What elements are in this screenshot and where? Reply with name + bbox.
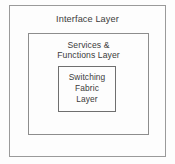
layer-box-switching-fabric: Switching Fabric Layer <box>58 66 116 112</box>
layer-label-interface: Interface Layer <box>10 14 165 25</box>
layer-box-interface: Interface Layer Services & Functions Lay… <box>9 5 166 157</box>
layer-label-switching-fabric: Switching Fabric Layer <box>59 72 115 105</box>
diagram-canvas: Interface Layer Services & Functions Lay… <box>0 0 175 164</box>
layer-box-services-functions: Services & Functions Layer Switching Fab… <box>28 33 149 135</box>
layer-label-services-functions: Services & Functions Layer <box>29 40 148 61</box>
